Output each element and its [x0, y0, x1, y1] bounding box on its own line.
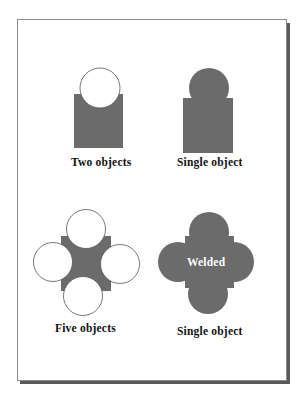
circle-top — [67, 210, 106, 249]
label-single-object-welded: Single object — [177, 325, 243, 337]
circle-left — [34, 243, 73, 282]
welded-text: Welded — [187, 256, 225, 268]
single-object-top-shape — [183, 68, 233, 153]
five-objects-shape — [34, 210, 140, 316]
circle-object — [80, 68, 120, 108]
label-single-object-top: Single object — [177, 156, 243, 168]
figure-illustration — [0, 0, 304, 399]
label-five-objects: Five objects — [55, 322, 116, 334]
figure-caption-clipped — [0, 391, 120, 399]
label-two-objects: Two objects — [71, 156, 131, 168]
two-objects-shape — [74, 68, 123, 148]
circle-bottom — [64, 277, 103, 316]
circle-right — [101, 245, 140, 284]
